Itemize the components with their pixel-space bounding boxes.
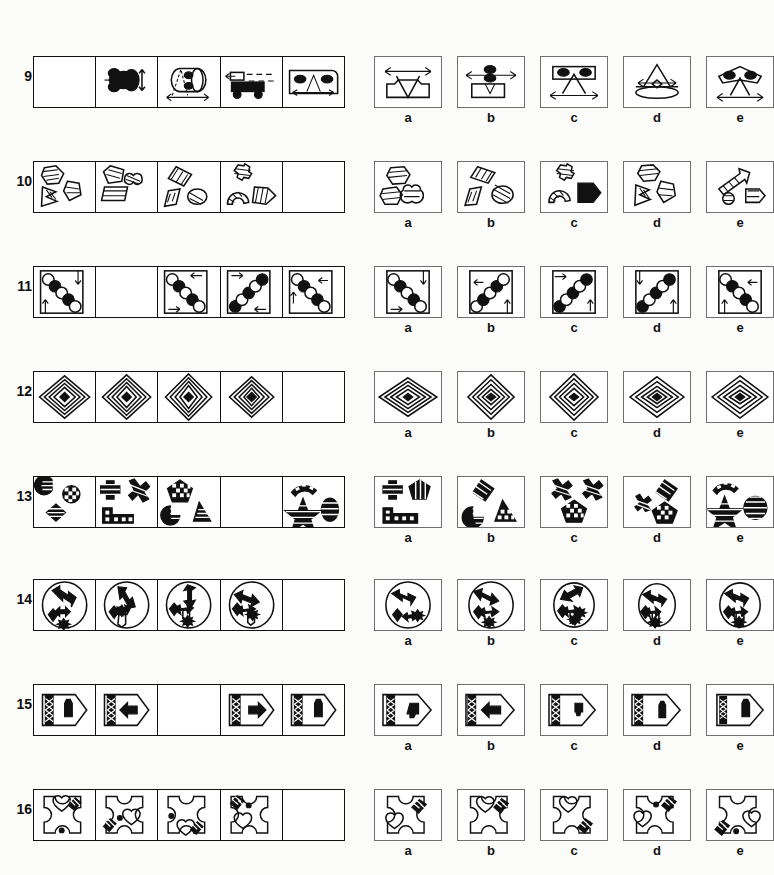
option-b[interactable] — [457, 476, 525, 528]
option-label: d — [623, 843, 691, 858]
option-d[interactable] — [623, 161, 691, 213]
problem-cell[interactable] — [96, 685, 158, 735]
problem-cell[interactable] — [283, 477, 344, 527]
option-b[interactable] — [457, 161, 525, 213]
problem-cell[interactable] — [96, 267, 158, 317]
option-c[interactable] — [540, 266, 608, 318]
option-a[interactable] — [374, 476, 442, 528]
problem-cell[interactable] — [283, 580, 344, 630]
option-label: b — [457, 425, 525, 440]
problem-cell[interactable] — [34, 477, 96, 527]
problem-cell[interactable] — [221, 267, 283, 317]
option-e[interactable] — [706, 161, 774, 213]
option-a[interactable] — [374, 161, 442, 213]
problem-cell[interactable] — [96, 790, 158, 840]
problem-cell[interactable] — [283, 685, 344, 735]
option-label: a — [374, 320, 442, 335]
option-d[interactable] — [623, 684, 691, 736]
problem-cell[interactable] — [34, 790, 96, 840]
option-a[interactable] — [374, 684, 442, 736]
problem-cell[interactable] — [34, 580, 96, 630]
option-d[interactable] — [623, 789, 691, 841]
option-d[interactable] — [623, 476, 691, 528]
problem-cell[interactable] — [96, 162, 158, 212]
option-b[interactable] — [457, 266, 525, 318]
problem-strip — [33, 266, 345, 318]
problem-cell[interactable] — [158, 162, 220, 212]
option-d[interactable] — [623, 266, 691, 318]
problem-strip — [33, 684, 345, 736]
option-label: d — [623, 530, 691, 545]
option-d[interactable] — [623, 56, 691, 108]
option-e[interactable] — [706, 684, 774, 736]
problem-cell[interactable] — [158, 372, 220, 422]
option-label: c — [540, 425, 608, 440]
problem-cell[interactable] — [283, 57, 344, 107]
problem-cell[interactable] — [283, 162, 344, 212]
option-e[interactable] — [706, 371, 774, 423]
option-a[interactable] — [374, 56, 442, 108]
problem-cell[interactable] — [221, 685, 283, 735]
problem-cell[interactable] — [221, 790, 283, 840]
option-e[interactable] — [706, 56, 774, 108]
problem-cell[interactable] — [158, 477, 220, 527]
option-label: a — [374, 633, 442, 648]
option-c[interactable] — [540, 684, 608, 736]
option-c[interactable] — [540, 789, 608, 841]
option-label: a — [374, 110, 442, 125]
option-c[interactable] — [540, 371, 608, 423]
problem-cell[interactable] — [34, 162, 96, 212]
problem-cell[interactable] — [34, 372, 96, 422]
option-c[interactable] — [540, 161, 608, 213]
row-number: 11 — [8, 278, 32, 294]
option-c[interactable] — [540, 579, 608, 631]
problem-cell[interactable] — [96, 372, 158, 422]
option-e[interactable] — [706, 579, 774, 631]
problem-strip — [33, 789, 345, 841]
option-label: e — [706, 320, 774, 335]
problem-cell[interactable] — [96, 477, 158, 527]
option-d[interactable] — [623, 371, 691, 423]
problem-cell[interactable] — [158, 790, 220, 840]
problem-cell[interactable] — [283, 372, 344, 422]
problem-cell[interactable] — [96, 580, 158, 630]
option-b[interactable] — [457, 56, 525, 108]
question-row-13: 13 — [0, 470, 772, 575]
question-row-11: 11 — [0, 260, 772, 365]
problem-cell[interactable] — [158, 57, 220, 107]
problem-cell[interactable] — [283, 267, 344, 317]
problem-cell[interactable] — [158, 685, 220, 735]
option-b[interactable] — [457, 371, 525, 423]
problem-cell[interactable] — [221, 57, 283, 107]
answer-options: a b c — [374, 56, 766, 130]
problem-cell[interactable] — [221, 372, 283, 422]
problem-cell[interactable] — [221, 580, 283, 630]
option-c[interactable] — [540, 476, 608, 528]
problem-cell[interactable] — [221, 162, 283, 212]
option-e[interactable] — [706, 266, 774, 318]
problem-cell[interactable] — [158, 580, 220, 630]
option-b[interactable] — [457, 789, 525, 841]
answer-options: a b c — [374, 684, 766, 758]
problem-cell[interactable] — [34, 57, 96, 107]
problem-cell[interactable] — [283, 790, 344, 840]
option-label: a — [374, 530, 442, 545]
option-label: b — [457, 530, 525, 545]
option-a[interactable] — [374, 266, 442, 318]
option-b[interactable] — [457, 684, 525, 736]
option-label: c — [540, 530, 608, 545]
option-a[interactable] — [374, 789, 442, 841]
option-b[interactable] — [457, 579, 525, 631]
option-d[interactable] — [623, 579, 691, 631]
problem-cell[interactable] — [34, 685, 96, 735]
option-a[interactable] — [374, 579, 442, 631]
problem-cell[interactable] — [221, 477, 283, 527]
problem-cell[interactable] — [34, 267, 96, 317]
option-label: e — [706, 530, 774, 545]
option-c[interactable] — [540, 56, 608, 108]
option-e[interactable] — [706, 789, 774, 841]
option-e[interactable] — [706, 476, 774, 528]
option-a[interactable] — [374, 371, 442, 423]
problem-cell[interactable] — [96, 57, 158, 107]
problem-cell[interactable] — [158, 267, 220, 317]
